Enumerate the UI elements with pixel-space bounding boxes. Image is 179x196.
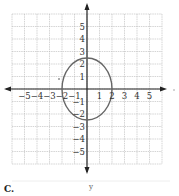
svg-text:5: 5 <box>80 22 85 32</box>
svg-text:4: 4 <box>134 91 139 101</box>
option-letter: C. <box>4 184 14 194</box>
svg-text:3: 3 <box>122 91 127 101</box>
x-axis-right-arrow-icon <box>160 87 167 92</box>
svg-text:−5: −5 <box>18 91 31 101</box>
svg-text:−2: −2 <box>72 109 85 119</box>
x-axis-left-arrow-icon <box>4 87 11 92</box>
stray-dot <box>58 78 60 80</box>
stray-dot <box>173 89 174 90</box>
svg-text:−3: −3 <box>43 91 56 101</box>
svg-text:2: 2 <box>80 59 85 69</box>
svg-text:−4: −4 <box>31 91 44 101</box>
svg-text:3: 3 <box>80 47 85 57</box>
svg-text:−3: −3 <box>72 122 85 132</box>
svg-text:4: 4 <box>80 34 85 44</box>
svg-text:5: 5 <box>147 91 152 101</box>
svg-text:−2: −2 <box>56 91 69 101</box>
svg-text:1: 1 <box>80 72 85 82</box>
svg-text:1: 1 <box>97 91 102 101</box>
axis-label-y: y <box>89 183 93 191</box>
y-axis-top-arrow-icon <box>85 3 90 10</box>
svg-text:−1: −1 <box>72 97 85 107</box>
svg-text:−5: −5 <box>72 147 85 157</box>
svg-text:−4: −4 <box>72 134 85 144</box>
svg-text:2: 2 <box>109 91 114 101</box>
x-tick-labels: −5−4−3−2−112345 <box>18 91 152 101</box>
y-axis-bottom-arrow-icon <box>85 167 90 174</box>
coordinate-plane: −5−4−3−2−112345 54321−1−2−3−4−5 <box>0 0 179 196</box>
